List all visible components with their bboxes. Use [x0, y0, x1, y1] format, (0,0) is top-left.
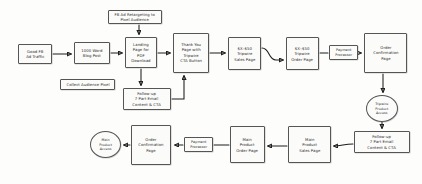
node-label: Follow-up 7 Part Email Content & CTA — [133, 91, 162, 106]
flowchart-edges — [0, 0, 422, 184]
node-tripwire-order-page[interactable]: $X–$50 Tripwire Order Page — [286, 37, 319, 70]
node-label: Order Confirmation Page — [138, 137, 163, 152]
node-landing-page[interactable]: Landing Page for PDF Download — [125, 37, 157, 68]
edge-tripwire-sales-to-tripwire-order — [262, 48, 283, 60]
node-collect-audience-pixel[interactable]: Collect Audience Pixel — [60, 79, 115, 90]
node-label: Order Confirmation Page — [373, 45, 398, 60]
node-good-fb-ad-traffic[interactable]: Good FB Ad Traffic — [18, 44, 52, 64]
node-label: Thank You Page with Tripwire CTA Button — [180, 43, 202, 64]
node-label: FB Ad Retargeting to Pixel Audience — [115, 12, 156, 22]
node-label: Main Product Sales Page — [299, 137, 320, 152]
node-label: Main Product Order Page — [237, 137, 259, 152]
node-label: Follow-up 7 Part Email Content & CTA — [368, 134, 397, 149]
node-payment-processor-bottom[interactable]: Payment Processor — [184, 137, 213, 152]
node-label: 1000 Word Blog Post — [81, 48, 102, 58]
node-main-product-order-page[interactable]: Main Product Order Page — [230, 126, 265, 163]
edge-followup-email-mid-to-thank-you-page — [172, 76, 184, 99]
node-label: $X–$50 Tripwire Sales Page — [234, 46, 255, 61]
node-followup-email-right[interactable]: Follow-up 7 Part Email Content & CTA — [354, 131, 410, 153]
node-thank-you-page[interactable]: Thank You Page with Tripwire CTA Button — [173, 33, 209, 73]
node-label: Good FB Ad Traffic — [26, 49, 44, 59]
node-order-confirmation-page-bottom[interactable]: Order Confirmation Page — [131, 125, 171, 165]
node-blog-post[interactable]: 1000 Word Blog Post — [74, 42, 110, 64]
node-tripwire-product-access[interactable]: Tripwire Product Access — [366, 95, 398, 122]
node-order-confirmation-page-top[interactable]: Order Confirmation Page — [364, 33, 407, 73]
flowchart-canvas: Good FB Ad Traffic 1000 Word Blog Post C… — [0, 0, 422, 184]
edge-followup-email-to-main-sales — [334, 144, 353, 146]
node-payment-processor-top[interactable]: Payment Processor — [329, 45, 358, 60]
node-label: $X–$50 Tripwire Order Page — [292, 46, 314, 61]
node-label: Main Product Access — [99, 138, 112, 152]
node-followup-email-middle[interactable]: Follow-up 7 Part Email Content & CTA — [123, 88, 171, 110]
node-label: Collect Audience Pixel — [66, 82, 109, 87]
node-tripwire-sales-page[interactable]: $X–$50 Tripwire Sales Page — [228, 37, 261, 70]
node-label: Landing Page for PDF Download — [131, 42, 150, 63]
node-label: Payment Processor — [335, 48, 352, 57]
node-label: Tripwire Product Access — [375, 102, 388, 116]
node-main-product-sales-page[interactable]: Main Product Sales Page — [288, 126, 331, 163]
node-fb-ad-retargeting[interactable]: FB Ad Retargeting to Pixel Audience — [108, 10, 162, 24]
node-label: Payment Processor — [190, 140, 207, 149]
node-main-product-access[interactable]: Main Product Access — [90, 131, 121, 158]
